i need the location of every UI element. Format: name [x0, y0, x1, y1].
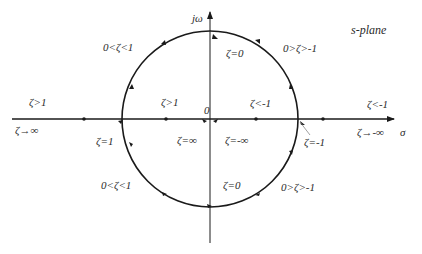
s-plane-root-locus-diagram: jω σ 0 s-plane 0<ζ<1 0>ζ>-1 0<ζ<1 0>ζ>-1…: [0, 0, 422, 254]
label-right-infinity: ζ→-∞: [357, 126, 384, 139]
axes: [12, 12, 394, 243]
s-plane-title: s-plane: [351, 23, 387, 37]
axis-dot: [164, 117, 168, 121]
axis-dot: [82, 117, 86, 121]
label-left-outer: ζ>1: [29, 96, 46, 109]
label-upper-right-arc: 0>ζ>-1: [283, 42, 317, 55]
arrow-icon: [161, 40, 166, 45]
leader-line: [300, 122, 310, 135]
imaginary-axis-label: jω: [190, 12, 203, 24]
arrow-icon: [212, 34, 218, 39]
label-origin-left: ζ=∞: [177, 134, 197, 147]
label-left-infinity: ζ→∞: [15, 124, 38, 137]
arrow-icon: [129, 142, 133, 147]
label-right-intersection: ζ=-1: [304, 136, 325, 149]
axis-dot: [254, 117, 258, 121]
label-right-inner: ζ<-1: [250, 97, 271, 110]
axis-dot: [321, 117, 325, 121]
label-lower-right-arc: 0>ζ>-1: [281, 181, 315, 194]
label-upper-left-arc: 0<ζ<1: [103, 41, 133, 54]
label-left-intersection: ζ=1: [96, 135, 113, 148]
label-left-inner: ζ>1: [161, 96, 178, 109]
label-top-point: ζ=0: [226, 47, 244, 60]
label-origin-right: ζ=-∞: [225, 134, 249, 147]
real-axis-label: σ: [400, 126, 406, 138]
label-right-outer: ζ<-1: [367, 98, 388, 111]
label-bottom-point: ζ=0: [223, 179, 241, 192]
label-lower-left-arc: 0<ζ<1: [101, 179, 131, 192]
origin-label: 0: [204, 104, 210, 116]
